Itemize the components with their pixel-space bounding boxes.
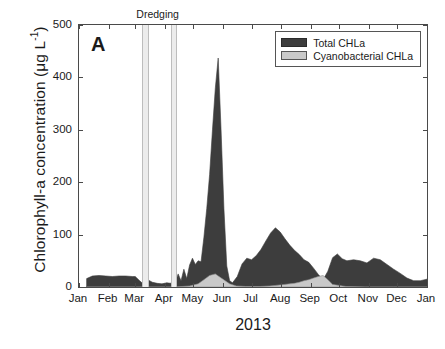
x-axis-tick	[369, 283, 370, 288]
y-axis-tick	[423, 182, 428, 183]
panel-label: A	[91, 33, 105, 56]
x-axis-tick	[165, 24, 166, 29]
y-tick-label: 400	[38, 70, 72, 82]
y-axis-tick	[423, 287, 428, 288]
x-axis-tick	[252, 283, 253, 288]
y-axis-tick	[78, 25, 83, 26]
x-axis-tick-labels: JanFebMarAprMayJunJulAugSepOctNovDecJan	[78, 292, 428, 308]
x-tick-label: Jul	[243, 292, 258, 304]
y-axis-tick	[423, 235, 428, 236]
x-axis-tick	[369, 24, 370, 29]
dredging-band-1	[142, 25, 149, 287]
x-axis-tick	[135, 24, 136, 29]
x-tick-label: Jan	[417, 292, 436, 304]
x-axis-tick	[109, 24, 110, 29]
x-axis-tick	[223, 283, 224, 288]
y-axis-tick	[78, 130, 83, 131]
x-axis-tick	[193, 24, 194, 29]
dredging-annotation-label: Dredging	[136, 8, 179, 20]
y-tick-label: 0	[38, 280, 72, 292]
x-axis-tick	[311, 283, 312, 288]
y-tick-label: 300	[38, 123, 72, 135]
legend: Total CHLa Cyanobacterial CHLa	[275, 31, 421, 67]
legend-label-cyanobacterial-chla: Cyanobacterial CHLa	[313, 50, 413, 62]
x-axis-tick	[281, 24, 282, 29]
x-axis-tick	[281, 283, 282, 288]
x-axis-tick	[223, 24, 224, 29]
x-tick-label: Nov	[358, 292, 378, 304]
x-axis-tick	[165, 283, 166, 288]
legend-label-total-chla: Total CHLa	[313, 37, 365, 49]
x-axis-tick	[397, 24, 398, 29]
x-tick-label: Mar	[124, 292, 144, 304]
x-tick-label: Aug	[270, 292, 290, 304]
plot-area: A Total CHLa Cyanobacterial CHLa	[78, 24, 428, 288]
x-tick-label: Dec	[386, 292, 406, 304]
y-tick-label: 500	[38, 18, 72, 30]
y-axis-tick	[78, 287, 83, 288]
x-axis-tick	[311, 24, 312, 29]
x-axis-tick	[397, 283, 398, 288]
x-axis-tick	[135, 283, 136, 288]
x-tick-label: Sep	[299, 292, 319, 304]
y-axis-tick-labels: 0100200300400500	[36, 0, 72, 349]
y-axis-tick	[423, 77, 428, 78]
y-axis-tick	[78, 235, 83, 236]
x-axis-tick	[339, 283, 340, 288]
y-axis-tick	[78, 77, 83, 78]
legend-swatch-cyanobacterial-chla	[281, 51, 307, 60]
x-axis-tick	[193, 283, 194, 288]
dredging-band-2	[171, 25, 178, 287]
x-tick-label: Feb	[98, 292, 118, 304]
x-axis-tick	[109, 283, 110, 288]
x-tick-label: May	[182, 292, 204, 304]
x-axis-title: 2013	[78, 316, 428, 334]
x-axis-tick	[339, 24, 340, 29]
series-total-chla-area	[87, 58, 427, 287]
y-tick-label: 200	[38, 175, 72, 187]
y-axis-tick	[423, 130, 428, 131]
x-tick-label: Apr	[155, 292, 173, 304]
y-axis-tick	[423, 25, 428, 26]
legend-item-total-chla: Total CHLa	[281, 36, 413, 49]
y-axis-tick	[78, 182, 83, 183]
y-tick-label: 100	[38, 228, 72, 240]
x-tick-label: Oct	[329, 292, 347, 304]
chart-figure: Chlorophyll-a concentration (μg L-1) 010…	[0, 0, 445, 349]
x-tick-label: Jan	[69, 292, 88, 304]
legend-swatch-total-chla	[281, 38, 307, 47]
x-axis-tick	[252, 24, 253, 29]
x-tick-label: Jun	[213, 292, 232, 304]
legend-item-cyanobacterial-chla: Cyanobacterial CHLa	[281, 49, 413, 62]
